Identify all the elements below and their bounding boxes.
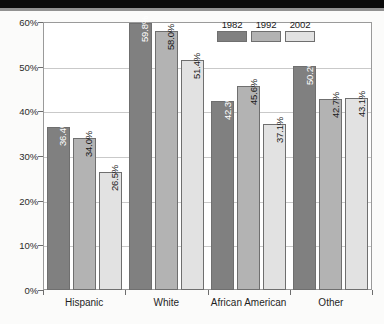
y-axis-tick-label: 30%: [6, 151, 38, 162]
bar-value-label: 59.8%: [140, 16, 150, 42]
bar: 43.1%: [345, 98, 368, 291]
bar-value-label: 36.4%: [58, 120, 68, 146]
bar-value-label: 45.6%: [249, 79, 259, 105]
y-axis-tick-label: 50%: [6, 61, 38, 72]
legend-color-swatch: [217, 31, 247, 42]
bar: 36.4%: [47, 127, 70, 290]
x-axis-tick-mark: [372, 290, 373, 295]
legend-color-swatch: [285, 31, 315, 42]
y-axis-tick-label: 0%: [6, 285, 38, 296]
x-axis-tick-mark: [125, 290, 126, 295]
bars-layer: 36.4%34.0%26.5%59.8%58.0%51.4%42.3%45.6%…: [43, 22, 372, 290]
x-axis-tick-mark: [290, 290, 291, 295]
bar-value-label: 42.3%: [223, 94, 233, 120]
bar-value-label: 43.1%: [357, 91, 367, 117]
y-axis-tick-label: 40%: [6, 106, 38, 117]
bar: 42.7%: [319, 99, 342, 290]
legend-item-label: 1982: [222, 20, 243, 30]
x-axis-tick-mark: [43, 290, 44, 295]
bar: 42.3%: [211, 101, 234, 290]
bar-value-label: 34.0%: [84, 131, 94, 157]
legend-color-swatch: [251, 31, 281, 42]
x-axis-tick-mark: [208, 290, 209, 295]
bar: 26.5%: [99, 172, 122, 290]
bar: 37.1%: [263, 124, 286, 290]
x-axis-category-label: Other: [318, 297, 343, 308]
bar-chart: 60%50%40%30%20%10%0% 36.4%34.0%26.5%59.8…: [0, 0, 384, 324]
bar: 34.0%: [73, 138, 96, 290]
bar-value-label: 58.0%: [166, 24, 176, 50]
y-axis-tick-label: 10%: [6, 240, 38, 251]
legend-item-label: 1992: [256, 20, 277, 30]
bar: 51.4%: [181, 60, 204, 290]
bar: 50.2%: [293, 66, 316, 290]
bar: 59.8%: [129, 23, 152, 290]
bar-value-label: 50.2%: [305, 59, 315, 85]
x-axis-category-label: African American: [211, 297, 287, 308]
bar-value-label: 37.1%: [275, 117, 285, 143]
legend-item: 1992: [251, 20, 281, 42]
legend: 198219922002: [217, 20, 315, 42]
y-axis-tick-label: 20%: [6, 195, 38, 206]
bar-value-label: 51.4%: [192, 53, 202, 79]
legend-item: 2002: [285, 20, 315, 42]
bar-value-label: 42.7%: [331, 92, 341, 118]
x-axis-category-label: Hispanic: [65, 297, 103, 308]
y-axis-tick-label: 60%: [6, 17, 38, 28]
bar: 58.0%: [155, 31, 178, 290]
legend-item: 1982: [217, 20, 247, 42]
bar: 45.6%: [237, 86, 260, 290]
bar-value-label: 26.5%: [110, 165, 120, 191]
legend-item-label: 2002: [290, 20, 311, 30]
x-axis-category-label: White: [154, 297, 180, 308]
